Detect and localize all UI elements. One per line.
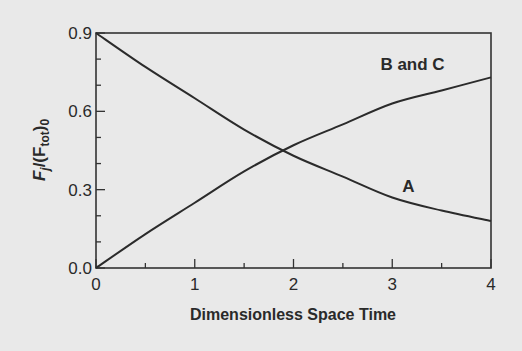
y-title-sub2: tot: [38, 131, 52, 146]
y-title-sub3: 0: [38, 119, 52, 126]
y-tick-label: 0.6: [68, 102, 92, 121]
y-title-main: F: [30, 170, 49, 181]
series-labels: AB and C: [380, 55, 444, 197]
x-tick-label: 0: [91, 275, 100, 294]
series-line-b-and-c: [96, 77, 491, 268]
x-tick-label: 4: [486, 275, 495, 294]
y-tick-label: 0.3: [68, 181, 92, 200]
x-tick-label: 3: [388, 275, 397, 294]
chart: 012340.00.30.60.9 AB and C Dimensionless…: [0, 0, 522, 351]
x-tick-label: 1: [190, 275, 199, 294]
y-tick-label: 0.0: [68, 259, 92, 278]
x-tick-label: 2: [289, 275, 298, 294]
series-label-b-and-c: B and C: [380, 55, 444, 74]
series-label-a: A: [402, 177, 414, 196]
y-axis-title: Fj/(Ftot)0: [30, 119, 52, 182]
y-tick-label: 0.9: [68, 24, 92, 43]
y-title-mid: /(F: [30, 147, 49, 168]
x-axis-title: Dimensionless Space Time: [190, 306, 396, 323]
